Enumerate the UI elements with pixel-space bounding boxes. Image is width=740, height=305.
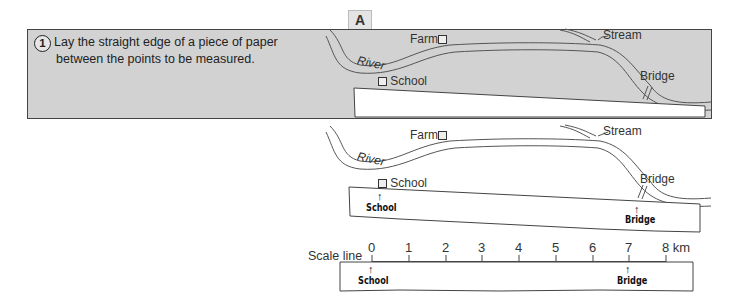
bridge-mark-arrow-icon: ↑: [634, 204, 640, 214]
school-label: School: [378, 176, 427, 190]
school-mark-arrow-icon: ↑: [377, 191, 383, 201]
scale-tick-4: 4: [515, 240, 522, 255]
paper-mark-bridge: Bridge: [617, 275, 647, 286]
school-square-icon: [378, 179, 387, 188]
farm-square-icon: [438, 35, 447, 44]
farm-square-icon: [438, 131, 447, 140]
scale-tick-1: 1: [405, 240, 412, 255]
scale-line-label: Scale line: [308, 249, 362, 263]
scale-tick-2: 2: [442, 240, 449, 255]
school-square-icon: [378, 77, 387, 86]
farm-label: Farm: [410, 32, 447, 46]
farm-label: Farm: [410, 128, 447, 142]
paper-mark-bridge: Bridge: [625, 214, 655, 225]
scale-tick-0: 0: [368, 240, 375, 255]
paper-mark-school: School: [358, 275, 389, 286]
scale-tick-7: 7: [625, 240, 632, 255]
bridge-label: Bridge: [640, 69, 675, 83]
scale-tick-8: 8 km: [662, 240, 690, 255]
scale-tick-5: 5: [552, 240, 559, 255]
school-mark-arrow-icon: ↑: [368, 264, 374, 274]
stream-label: Stream: [603, 28, 642, 42]
stream-label: Stream: [603, 124, 642, 138]
bridge-label: Bridge: [640, 172, 675, 186]
paper-mark-school: School: [366, 202, 397, 213]
school-label: School: [378, 74, 427, 88]
bridge-mark-arrow-icon: ↑: [625, 264, 631, 274]
scale-tick-6: 6: [589, 240, 596, 255]
scale-tick-3: 3: [478, 240, 485, 255]
